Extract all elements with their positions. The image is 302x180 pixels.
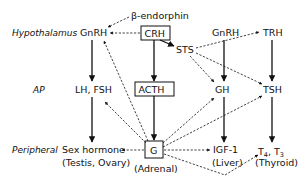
- row-label-hypothalamus: Hypothalamus: [12, 28, 78, 38]
- edge-betaendorphin-to-gnrh: [108, 17, 129, 27]
- node-g: G: [150, 145, 157, 156]
- node-beta-endorphin: β-endorphin: [131, 10, 189, 21]
- node-gnrh-left: GnRH: [80, 27, 107, 38]
- node-sex-hormone: Sex hormone: [62, 144, 125, 155]
- node-t4-t3-source: (Thyroid): [255, 157, 298, 168]
- node-gnrh-right: GnRH: [212, 27, 239, 38]
- row-label-ap: AP: [32, 85, 45, 95]
- node-igf1: IGF-1: [213, 144, 238, 155]
- edge-sts-to-tsh: [196, 53, 262, 84]
- node-igf1-source: (Liver): [212, 157, 243, 168]
- hormone-axis-diagram: Hypothalamus AP Peripheral β-endorphin G…: [0, 0, 302, 180]
- row-label-peripheral: Peripheral: [12, 145, 58, 155]
- node-sts: STS: [176, 44, 194, 55]
- edge-g-to-tsh: [163, 96, 262, 147]
- node-tsh: TSH: [262, 84, 282, 95]
- edge-g-to-gh: [163, 98, 214, 143]
- edge-g-to-t4t3: [164, 154, 258, 175]
- node-gh: GH: [215, 84, 230, 95]
- node-g-source: (Adrenal): [134, 163, 178, 174]
- edge-crh-to-sts: [160, 40, 174, 46]
- node-trh: TRH: [262, 27, 283, 38]
- node-sex-hormone-source: (Testis, Ovary): [62, 157, 130, 168]
- node-crh: CRH: [145, 28, 165, 39]
- node-lh-fsh: LH, FSH: [75, 84, 112, 95]
- node-acth: ACTH: [139, 84, 165, 95]
